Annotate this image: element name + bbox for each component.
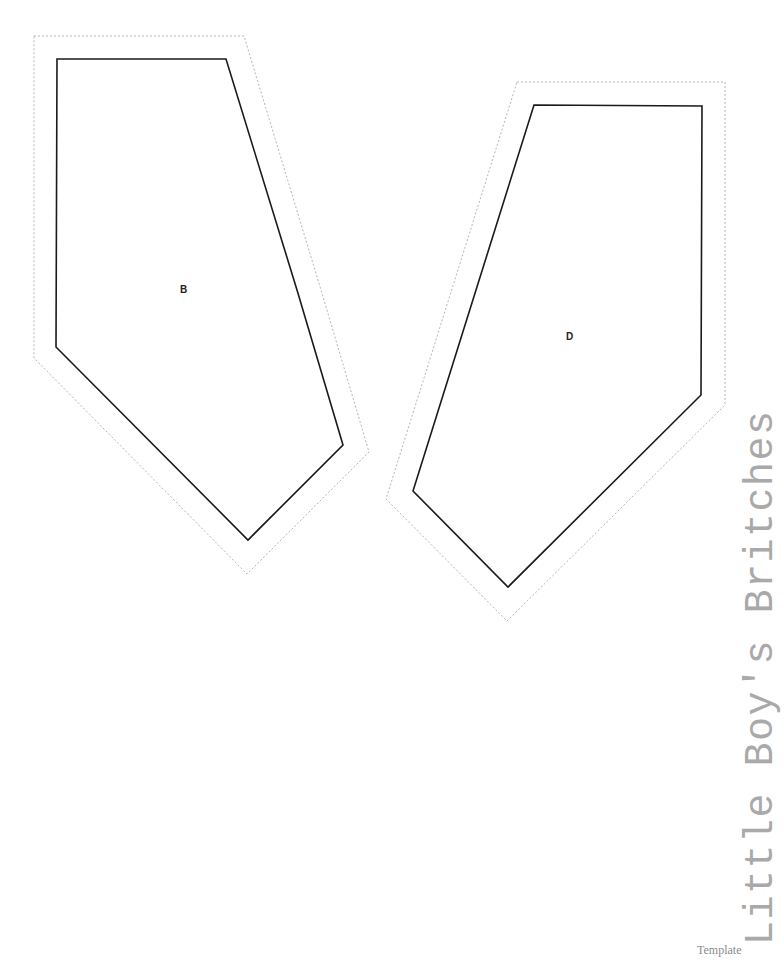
cut-outline-d — [413, 105, 702, 587]
footer-label: Template — [697, 943, 741, 958]
pattern-piece-b — [34, 36, 369, 574]
document-title: Little Boy's Britches — [742, 409, 782, 945]
piece-label-b: B — [180, 284, 187, 295]
piece-label-d: D — [566, 331, 573, 342]
pattern-piece-d — [386, 82, 725, 621]
cut-outline-b — [56, 59, 343, 540]
